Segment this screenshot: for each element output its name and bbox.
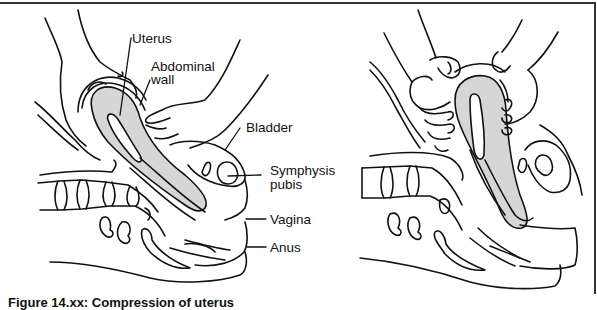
right-panel-drawing: [360, 10, 582, 289]
label-symphysis-line1: Symphysis: [270, 164, 335, 177]
label-anus: Anus: [270, 241, 301, 254]
left-hand-right: [418, 10, 436, 58]
uterus-shape-right: [455, 76, 527, 229]
symphysis-pubis-left: [217, 162, 237, 184]
label-symphysis-line2: pubis: [270, 178, 302, 191]
bladder-right: [525, 141, 570, 193]
label-uterus: Uterus: [132, 32, 172, 45]
uterus-shape-left: [91, 87, 206, 211]
label-bladder: Bladder: [246, 121, 293, 134]
symphysis-pubis-right: [535, 155, 552, 175]
right-hand-right: [502, 20, 522, 52]
label-abdominal-wall-line2: wall: [151, 73, 174, 86]
left-panel-drawing: [35, 10, 268, 282]
label-vagina: Vagina: [270, 213, 311, 226]
figure-caption: Figure 14.xx: Compression of uterus: [8, 295, 234, 310]
